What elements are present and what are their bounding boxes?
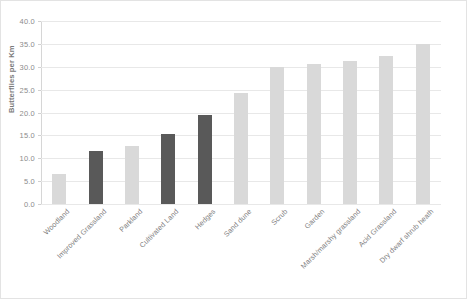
bar-slot[interactable] — [41, 21, 77, 204]
bar[interactable] — [89, 151, 103, 204]
y-tick-label: 10.0 — [20, 154, 35, 163]
plot-area: 0.05.010.015.020.025.030.035.040.0 — [41, 21, 441, 204]
x-tick-label: Parkland — [117, 207, 144, 234]
x-tick-label-text: Hedges — [193, 207, 217, 231]
bar-slot[interactable] — [77, 21, 113, 204]
bar[interactable] — [234, 93, 248, 204]
x-tick-label-text: Woodland — [42, 207, 72, 237]
x-tick-label-text: Garden — [302, 207, 326, 231]
bar-slot[interactable] — [296, 21, 332, 204]
x-tick-label: Woodland — [42, 207, 72, 237]
x-tick-label-text: Sand dune — [222, 207, 254, 239]
bar[interactable] — [125, 146, 139, 204]
x-tick-label-text: Marsh/marshy grassland — [299, 207, 363, 271]
bar-slot[interactable] — [150, 21, 186, 204]
bar[interactable] — [379, 56, 393, 204]
bar-slot[interactable] — [114, 21, 150, 204]
y-tick-label: 40.0 — [20, 17, 35, 26]
bar-slot[interactable] — [405, 21, 441, 204]
x-axis-labels: WoodlandImproved GrasslandParklandCultiv… — [41, 205, 441, 295]
x-tick-label: Sand dune — [222, 207, 254, 239]
y-tick-label: 0.0 — [24, 200, 35, 209]
bar-slot[interactable] — [368, 21, 404, 204]
x-tick-label-text: Scrub — [270, 207, 290, 227]
y-axis-title: Butterflies per Km — [7, 45, 16, 113]
bar[interactable] — [52, 174, 66, 204]
x-tick-label: Scrub — [270, 207, 290, 227]
bar[interactable] — [161, 134, 175, 204]
bar-slot[interactable] — [223, 21, 259, 204]
y-tick-label: 15.0 — [20, 131, 35, 140]
bar[interactable] — [270, 67, 284, 204]
x-tick-label: Marsh/marshy grassland — [299, 207, 363, 271]
chart-frame: Butterflies per Km 0.05.010.015.020.025.… — [0, 0, 467, 299]
x-tick-label: Garden — [302, 207, 326, 231]
bar-slot[interactable] — [186, 21, 222, 204]
bar-slot[interactable] — [259, 21, 295, 204]
x-tick-label: Hedges — [193, 207, 217, 231]
bar[interactable] — [307, 64, 321, 204]
bar[interactable] — [416, 44, 430, 204]
y-tick-label: 30.0 — [20, 62, 35, 71]
y-tick-label: 25.0 — [20, 85, 35, 94]
bar[interactable] — [343, 61, 357, 204]
bar[interactable] — [198, 115, 212, 204]
y-tick-label: 5.0 — [24, 177, 35, 186]
bar-series — [41, 21, 441, 204]
x-tick-label-text: Parkland — [117, 207, 144, 234]
y-tick-label: 20.0 — [20, 108, 35, 117]
bar-slot[interactable] — [332, 21, 368, 204]
y-tick-label: 35.0 — [20, 39, 35, 48]
